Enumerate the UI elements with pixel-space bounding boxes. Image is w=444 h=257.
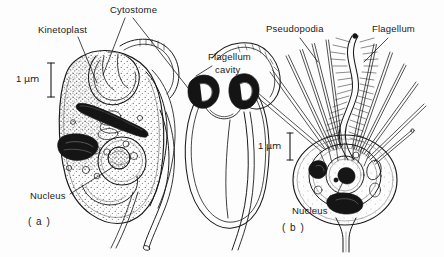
label-cytostome: Cytostome <box>110 4 157 15</box>
panel-b-drawing <box>256 34 426 252</box>
label-flagellum-b: Flagellum <box>372 23 415 34</box>
scale-bar-a-label: 1 μm <box>16 73 39 84</box>
scale-bar-b <box>287 133 293 160</box>
panel-label-b: ( b ) <box>282 222 305 233</box>
organelle-dark-a <box>58 134 98 161</box>
scale-bar-a-value: 1 <box>16 73 21 84</box>
label-flagellum-cavity-line1: Flagellum <box>208 51 251 62</box>
flagellum-cavity-right <box>229 74 259 109</box>
label-pseudopodia: Pseudopodia <box>266 23 324 34</box>
scale-bar-a-unit: μm <box>24 73 39 84</box>
flagellum-cavity-left <box>188 75 219 108</box>
figure-container: Kinetoplast Cytostome Flagellum cavity N… <box>0 0 444 257</box>
scale-bar-b-unit: μm <box>266 140 281 151</box>
label-nucleus-a: Nucleus <box>30 190 66 201</box>
label-flagellum-cavity-line2: cavity <box>215 64 240 75</box>
leader-flagellum-b <box>364 38 388 62</box>
label-nucleus-b: Nucleus <box>292 205 328 216</box>
label-kinetoplast: Kinetoplast <box>38 24 87 35</box>
leader-flagellum-cavity <box>196 66 212 76</box>
scale-bar-b-label: 1 μm <box>258 140 281 151</box>
panel-label-a: ( a ) <box>28 216 51 227</box>
scale-bar-a <box>48 63 55 97</box>
scale-bar-b-value: 1 <box>258 140 263 151</box>
figure-drawing <box>0 0 444 257</box>
